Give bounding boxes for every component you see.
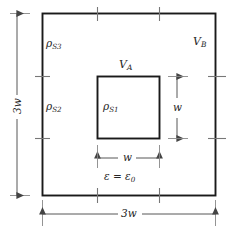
inner-extension-ticks [98, 77, 189, 169]
label-dim-3w-left: 3w [12, 98, 23, 114]
figure-canvas: ρS3 ρS2 ρS1 VA VB ε = ε0 w w 3w 3w [0, 0, 237, 235]
outer-extension-lines [10, 14, 216, 227]
v-a-subscript: A [127, 63, 132, 72]
rho-s1-subscript: S1 [109, 105, 118, 114]
v-b-base: V [193, 35, 201, 48]
rho-s2-subscript: S2 [52, 105, 61, 114]
label-permittivity: ε = ε0 [104, 171, 135, 182]
permittivity-subscript: 0 [131, 175, 136, 184]
rho-s3-subscript: S3 [52, 42, 61, 51]
v-b-subscript: B [201, 40, 207, 49]
permittivity-base: ε = ε [104, 170, 131, 182]
outer-boundary-square [43, 14, 216, 196]
label-rho-s3: ρS3 [46, 38, 62, 49]
label-dim-w-vertical: w [173, 102, 182, 113]
label-dim-3w-bottom: 3w [121, 208, 137, 219]
label-dim-w-horizontal: w [123, 152, 132, 163]
label-rho-s1: ρS1 [103, 101, 119, 112]
label-v-b: VB [193, 36, 206, 47]
v-a-base: V [119, 58, 127, 71]
label-v-a: VA [119, 59, 132, 70]
label-rho-s2: ρS2 [46, 101, 62, 112]
